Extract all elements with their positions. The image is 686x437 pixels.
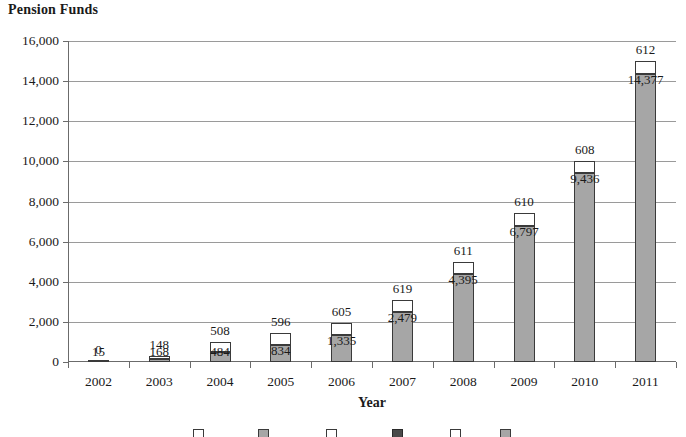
bar-segment-lower [574,173,595,362]
y-axis-tick-label: 12,000 [22,113,59,129]
y-axis-tick [63,322,69,323]
x-axis-tick-label: 2010 [571,374,598,390]
legend-swatch-icon [193,429,204,437]
legend-item [326,429,337,437]
x-axis-tick [311,362,312,368]
x-axis-tick [190,362,191,368]
chart-container: Pension Funds 02,0004,0006,0008,00010,00… [0,0,686,437]
y-axis-tick-label: 4,000 [29,274,59,290]
bar-segment-lower [514,226,535,362]
x-axis-tick-label: 2005 [267,374,294,390]
gridline [68,121,676,122]
bar-segment-lower [88,360,109,362]
data-label-lower: 168 [149,344,169,360]
plot-area: 02,0004,0006,0008,00010,00012,00014,0001… [68,41,676,362]
bar-group [635,61,656,362]
data-label-lower: 15 [92,344,105,360]
x-axis-tick-label: 2003 [146,374,173,390]
legend-item [392,429,403,437]
x-axis-tick [676,362,677,368]
data-label-upper: 612 [636,42,656,58]
bar-group [88,361,109,363]
y-axis-tick-label: 2,000 [29,314,59,330]
legend-swatch-icon [392,429,403,437]
x-axis-tick [615,362,616,368]
x-axis-tick [372,362,373,368]
legend-item [193,429,204,437]
x-axis-tick-label: 2007 [389,374,416,390]
data-label-upper: 619 [393,281,413,297]
legend-item [450,429,461,437]
legend-swatch-icon [450,429,461,437]
gridline [68,81,676,82]
y-axis-tick [63,121,69,122]
x-axis-tick-label: 2002 [85,374,112,390]
x-axis-tick-label: 2004 [207,374,234,390]
legend-item [258,429,269,437]
y-axis-tick [63,202,69,203]
y-axis-tick [63,161,69,162]
data-label-upper: 610 [514,194,534,210]
y-axis-tick-label: 10,000 [22,153,59,169]
x-axis-tick-label: 2009 [511,374,538,390]
data-label-lower: 1,335 [327,333,356,349]
data-label-upper: 611 [454,243,473,259]
x-axis-tick [433,362,434,368]
y-axis-tick [63,242,69,243]
data-label-lower: 2,479 [388,310,417,326]
y-axis-tick-label: 6,000 [29,234,59,250]
data-label-upper: 605 [332,304,352,320]
chart-legend [0,429,686,437]
y-axis-tick-label: 14,000 [22,73,59,89]
legend-swatch-icon [500,429,511,437]
y-axis-tick [63,41,69,42]
data-label-upper: 596 [271,314,291,330]
x-axis-tick-label: 2011 [632,374,659,390]
data-label-upper: 608 [575,142,595,158]
data-label-lower: 9,436 [570,171,599,187]
data-label-upper: 508 [210,323,230,339]
y-axis-tick-label: 8,000 [29,194,59,210]
x-axis-tick [554,362,555,368]
gridline [68,41,676,42]
legend-swatch-icon [326,429,337,437]
legend-item [500,429,511,437]
legend-swatch-icon [258,429,269,437]
data-label-lower: 4,395 [449,272,478,288]
bar-segment-lower [635,74,656,362]
data-label-lower: 484 [210,344,230,360]
x-axis-tick-label: 2008 [450,374,477,390]
bar-group [574,161,595,363]
y-axis-tick [63,81,69,82]
y-axis-tick-label: 0 [52,354,59,370]
y-axis-tick [63,282,69,283]
x-axis-title: Year [68,395,676,411]
data-label-lower: 6,797 [509,224,538,240]
chart-title: Pension Funds [8,2,98,18]
x-axis-tick [250,362,251,368]
x-axis-tick [494,362,495,368]
x-axis-tick [129,362,130,368]
x-axis-tick [68,362,69,368]
y-axis-tick-label: 16,000 [22,33,59,49]
x-axis-tick-label: 2006 [328,374,355,390]
data-label-lower: 14,377 [628,72,664,88]
bar-group [392,300,413,362]
data-label-lower: 834 [271,343,291,359]
